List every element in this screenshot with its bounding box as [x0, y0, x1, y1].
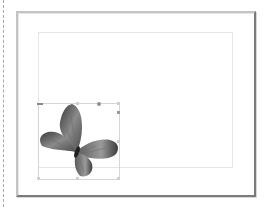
selection-handle-top-left[interactable] [37, 103, 43, 105]
selection-handle-bottom-left[interactable] [37, 177, 40, 180]
selection-handle-top-rotate[interactable] [97, 102, 101, 106]
selection-handle-right-upper[interactable] [117, 111, 120, 114]
selection-handle-bottom-right[interactable] [117, 177, 120, 180]
selection-handle-bottom-center[interactable] [76, 177, 79, 180]
document-canvas [0, 0, 274, 207]
image-selection-box[interactable] [38, 103, 120, 180]
selection-handle-top-right[interactable] [117, 102, 120, 105]
left-margin-guide [3, 0, 4, 207]
selection-handle-middle-right[interactable] [117, 140, 120, 143]
selection-handle-top-center[interactable] [76, 102, 79, 105]
